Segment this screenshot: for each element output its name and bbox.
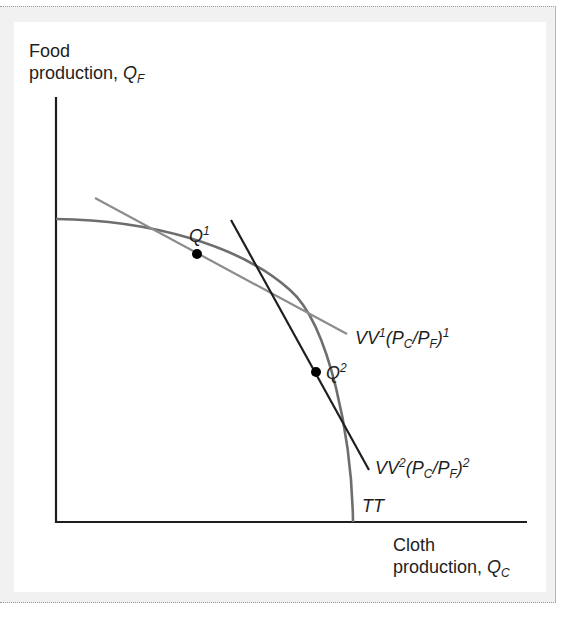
x-axis-label-text: production, xyxy=(393,557,487,577)
y-axis-label-line2: production, QF xyxy=(29,62,144,84)
y-axis-symbol-sub: F xyxy=(137,72,144,86)
point-q2-label: Q2 xyxy=(326,362,347,384)
point-q1-symbol: Q xyxy=(189,226,203,246)
y-axis-label-text: production, xyxy=(29,63,123,83)
x-axis-symbol-sub: C xyxy=(501,566,510,580)
vv1-prefix: VV xyxy=(355,328,379,348)
vv2-sub-f: F xyxy=(449,467,456,481)
vv1-slash: /P xyxy=(412,328,429,348)
point-q2-symbol: Q xyxy=(326,363,340,383)
vv1-open: (P xyxy=(386,328,404,348)
vv2-sup: 2 xyxy=(399,456,406,470)
vv2-prefix: VV xyxy=(375,458,399,478)
point-q1-label: Q1 xyxy=(189,225,210,247)
x-axis-label-line2: production, QC xyxy=(393,556,510,578)
vv2-sup2: 2 xyxy=(463,456,470,470)
point-q1-sup: 1 xyxy=(203,224,210,238)
line-vv2-label: VV2(PC/PF)2 xyxy=(375,457,469,479)
point-q2-marker xyxy=(311,367,321,377)
isovalue-line-vv1 xyxy=(95,198,347,334)
line-vv1-label: VV1(PC/PF)1 xyxy=(355,327,449,349)
isovalue-line-vv2 xyxy=(231,220,369,470)
point-q2-sup: 2 xyxy=(340,361,347,375)
x-axis-label: Cloth production, QC xyxy=(393,534,510,578)
vv1-sup2: 1 xyxy=(443,326,450,340)
ppf-curve-tt xyxy=(56,219,353,522)
point-q1-marker xyxy=(192,249,202,259)
x-axis-symbol: Q xyxy=(487,557,501,577)
y-axis-symbol: Q xyxy=(123,63,137,83)
vv2-slash: /P xyxy=(432,458,449,478)
x-axis-label-line1: Cloth xyxy=(393,534,510,556)
vv2-open: (P xyxy=(406,458,424,478)
y-axis-label: Food production, QF xyxy=(29,40,144,84)
y-axis-label-line1: Food xyxy=(29,40,144,62)
curve-tt-label: TT xyxy=(362,495,384,517)
vv1-sub-f: F xyxy=(429,337,436,351)
vv1-sup: 1 xyxy=(379,326,386,340)
